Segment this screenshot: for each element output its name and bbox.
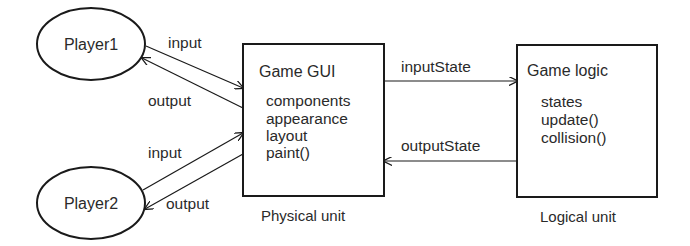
game-gui-title: Game GUI bbox=[259, 63, 335, 80]
p2-output-label: output bbox=[166, 195, 210, 212]
p1-output-label: output bbox=[148, 92, 192, 109]
game-logic-item: update() bbox=[541, 111, 599, 128]
game-logic-item: states bbox=[541, 93, 583, 110]
player2-node: Player2 bbox=[37, 167, 145, 239]
input-state-edge: inputState bbox=[384, 58, 517, 81]
game-logic-item: collision() bbox=[541, 129, 606, 146]
player2-label: Player2 bbox=[64, 195, 118, 212]
output-state-label: outputState bbox=[401, 137, 480, 154]
physical-unit-caption: Physical unit bbox=[261, 207, 346, 224]
p1-input-edge: input bbox=[146, 34, 243, 88]
p1-input-label: input bbox=[168, 34, 202, 51]
game-gui-item: layout bbox=[266, 127, 308, 144]
game-gui-node: Game GUI components appearance layout pa… bbox=[243, 44, 384, 224]
game-gui-item: appearance bbox=[266, 110, 348, 127]
game-gui-item: paint() bbox=[266, 144, 310, 161]
logical-unit-caption: Logical unit bbox=[540, 208, 617, 225]
architecture-diagram: Player1 Player2 Game GUI components appe… bbox=[0, 0, 690, 246]
input-state-label: inputState bbox=[401, 58, 471, 75]
game-gui-item: components bbox=[266, 92, 351, 109]
game-logic-node: Game logic states update() collision() L… bbox=[517, 45, 657, 225]
p2-output-edge: output bbox=[145, 154, 243, 212]
game-logic-title: Game logic bbox=[527, 62, 608, 79]
p2-input-label: input bbox=[148, 144, 182, 161]
player1-label: Player1 bbox=[64, 36, 118, 53]
output-state-edge: outputState bbox=[384, 137, 517, 161]
player1-node: Player1 bbox=[37, 8, 145, 80]
